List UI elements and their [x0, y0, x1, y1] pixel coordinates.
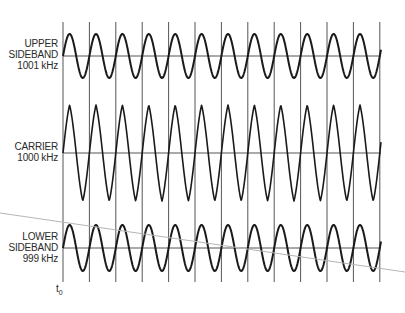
carrier-label: CARRIER 1000 kHz: [0, 141, 58, 163]
waveform-figure: [0, 0, 405, 313]
upper-sideband-label: UPPER SIDEBAND 1001 kHz: [0, 38, 58, 71]
lower-sideband-label: LOWER SIDEBAND 999 kHz: [0, 231, 58, 264]
time-origin-label: t0: [56, 283, 63, 296]
diagonal-line: [0, 213, 405, 272]
